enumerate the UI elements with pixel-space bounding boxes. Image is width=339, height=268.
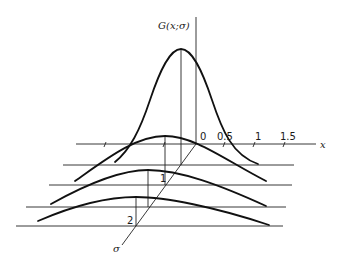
x-tick-1-5: 1.5 bbox=[280, 131, 296, 142]
curve-sigma-4 bbox=[38, 197, 269, 225]
x-tick-0: 0 bbox=[200, 131, 206, 142]
gaussian-diagram: G(x;σ) x σ 0 0.5 1 1.5 1 2 bbox=[0, 0, 339, 268]
sigma-tick-2: 2 bbox=[127, 215, 133, 226]
sigma-tick-1: 1 bbox=[160, 173, 166, 184]
curve-sigma-2 bbox=[75, 136, 266, 181]
vertical-axis-label: G(x;σ) bbox=[158, 20, 190, 31]
x-tick-1: 1 bbox=[255, 131, 261, 142]
curve-sigma-small bbox=[115, 49, 258, 164]
sigma-axis bbox=[122, 144, 196, 245]
sigma-axis-label: σ bbox=[113, 243, 121, 254]
x-tick-0-5: 0.5 bbox=[217, 131, 233, 142]
x-axis-label: x bbox=[320, 139, 326, 150]
